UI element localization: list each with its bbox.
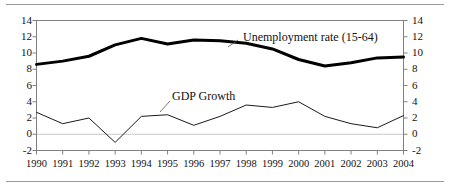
y-axis-label-left: 8 xyxy=(12,63,32,74)
y-axis-label-right: 0 xyxy=(412,128,432,139)
y-axis-label-left: 6 xyxy=(12,80,32,91)
y-axis-label-left: 0 xyxy=(12,128,32,139)
y-axis-label-left: 14 xyxy=(12,15,32,26)
y-axis-label-right: 4 xyxy=(412,96,432,107)
series-annotation-1: Unemployment rate (15-64) xyxy=(243,31,378,43)
series-line-2 xyxy=(37,102,404,143)
y-axis-label-right: 8 xyxy=(412,63,432,74)
annotation-leader-line-2 xyxy=(160,101,170,112)
x-axis-label: 2004 xyxy=(387,158,421,169)
plot-area: -202468101214-20246810121419901991199219… xyxy=(0,0,450,187)
y-axis-label-right: 6 xyxy=(412,80,432,91)
y-axis-label-right: 10 xyxy=(412,47,432,58)
y-axis-label-right: 12 xyxy=(412,31,432,42)
y-axis-label-left: 10 xyxy=(12,47,32,58)
y-axis-label-right: 14 xyxy=(412,15,432,26)
series-annotation-2: GDP Growth xyxy=(172,90,235,102)
y-axis-label-left: 12 xyxy=(12,31,32,42)
y-axis-label-right: -2 xyxy=(412,145,432,156)
chart-figure: -202468101214-20246810121419901991199219… xyxy=(0,0,450,187)
y-axis-label-left: 4 xyxy=(12,96,32,107)
y-axis-label-left: -2 xyxy=(12,145,32,156)
y-axis-label-right: 2 xyxy=(412,112,432,123)
y-axis-label-left: 2 xyxy=(12,112,32,123)
